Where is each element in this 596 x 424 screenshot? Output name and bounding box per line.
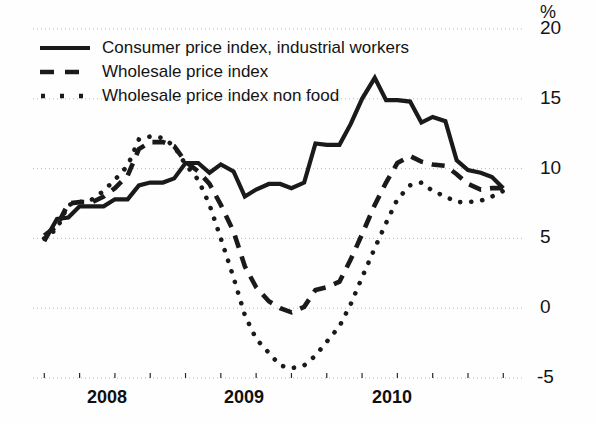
- x-tick-label-2010: 2010: [342, 387, 442, 408]
- y-tick-label-5: 5: [540, 226, 551, 248]
- y-tick-label-neg5: -5: [537, 366, 554, 388]
- series-lines: [44, 78, 503, 368]
- legend-key-dotted-icon: [34, 84, 96, 108]
- chart-container: % 20 15 10 5 0 -5 2008 2009 2010 Consume…: [0, 0, 596, 424]
- y-tick-label-15: 15: [540, 87, 561, 109]
- legend-label-wpi: Wholesale price index: [96, 62, 268, 82]
- y-tick-label-10: 10: [540, 157, 561, 179]
- legend-item-wpi: Wholesale price index: [34, 60, 409, 84]
- y-tick-label-20: 20: [540, 17, 561, 39]
- x-axis-ticks: [44, 373, 503, 378]
- legend-key-solid-icon: [34, 36, 96, 60]
- x-tick-label-2009: 2009: [194, 387, 294, 408]
- y-tick-label-0: 0: [540, 296, 551, 318]
- legend-label-wpi-nonfood: Wholesale price index non food: [96, 86, 339, 106]
- x-tick-label-2008: 2008: [57, 387, 157, 408]
- legend-item-cpi: Consumer price index, industrial workers: [34, 36, 409, 60]
- chart-legend: Consumer price index, industrial workers…: [34, 36, 409, 108]
- legend-key-dashed-icon: [34, 60, 96, 84]
- legend-label-cpi: Consumer price index, industrial workers: [96, 38, 409, 58]
- legend-item-wpi-nonfood: Wholesale price index non food: [34, 84, 409, 108]
